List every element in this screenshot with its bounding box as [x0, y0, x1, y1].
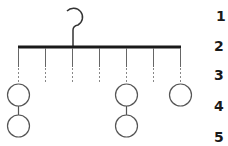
row-label-1: 1	[216, 9, 226, 23]
hanger-diagram	[0, 0, 228, 146]
circle-col1-row5	[8, 115, 30, 137]
row-label-5: 5	[214, 130, 224, 144]
drop-lines	[19, 48, 181, 67]
hanger-hook	[67, 8, 83, 47]
circle-col1-row4	[8, 84, 30, 106]
circle-col5-row5	[116, 115, 138, 137]
drop-dashes	[19, 68, 181, 84]
circle-col5-row4	[116, 84, 138, 106]
row-label-4: 4	[214, 99, 224, 113]
circle-col7-row4	[170, 84, 192, 106]
row-label-2: 2	[214, 39, 224, 53]
row-label-3: 3	[214, 68, 224, 82]
